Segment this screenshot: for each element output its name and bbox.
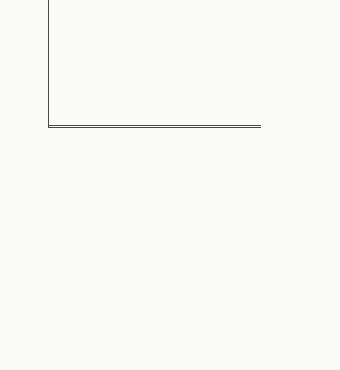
x-axis-line-bottom [48, 125, 261, 126]
plot-area-bottom [48, 8, 260, 126]
y-axis-line-bottom [48, 8, 49, 126]
x-axis-line-top [48, 127, 261, 128]
